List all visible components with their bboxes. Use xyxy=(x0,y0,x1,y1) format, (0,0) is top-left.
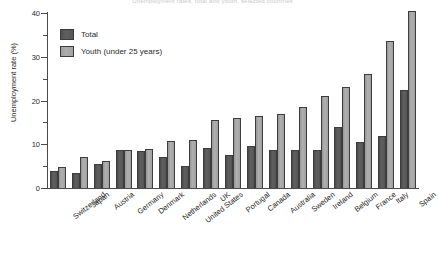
x-axis-labels: SwitzerlandJapanAustriaGermanyDenmarkNet… xyxy=(47,190,419,260)
chart-title: Unemployment rates, total and youth, sel… xyxy=(0,0,425,5)
bar-total xyxy=(137,151,145,188)
x-tick-label: Spain xyxy=(417,190,438,209)
bar-total xyxy=(269,150,277,189)
y-tick-label: 0 xyxy=(2,184,40,193)
y-tick-label-wrap: 20 xyxy=(0,101,40,102)
y-tick-major xyxy=(41,188,47,189)
bar-youth xyxy=(408,11,416,188)
bar-total xyxy=(50,171,58,189)
x-tick-label: France xyxy=(374,190,398,211)
x-tick-label-wrap: Italy xyxy=(394,190,410,206)
bar-youth xyxy=(342,87,350,189)
x-tick-label-wrap: France xyxy=(374,190,398,211)
bar-group xyxy=(69,13,91,188)
bar-total xyxy=(313,150,321,189)
x-tick-label-wrap: Portugal xyxy=(244,190,272,214)
bar-youth xyxy=(189,140,197,188)
bar-group xyxy=(222,13,244,188)
bar-group xyxy=(113,13,135,188)
bar-youth xyxy=(321,96,329,188)
bar-group xyxy=(200,13,222,188)
bar-group xyxy=(266,13,288,188)
bar-group xyxy=(156,13,178,188)
bar-total xyxy=(116,150,124,188)
bar-total xyxy=(291,150,299,189)
x-axis-line xyxy=(47,188,419,189)
bar-group xyxy=(310,13,332,188)
bar-group xyxy=(91,13,113,188)
y-tick-label-wrap: 40 xyxy=(0,13,40,14)
bar-total xyxy=(72,173,80,188)
bar-youth xyxy=(211,120,219,188)
y-tick-label: 30 xyxy=(2,53,40,62)
y-tick-label-wrap: 0 xyxy=(0,188,40,189)
bar-youth xyxy=(102,161,110,188)
x-tick-label: Italy xyxy=(394,190,410,206)
bar-youth xyxy=(233,118,241,188)
bar-total xyxy=(400,90,408,188)
x-tick-label: Australia xyxy=(288,190,317,215)
bar-group xyxy=(135,13,157,188)
bar-group xyxy=(375,13,397,188)
bar-youth xyxy=(80,157,88,188)
bar-total xyxy=(378,136,386,188)
bar-total xyxy=(203,148,211,188)
x-tick-label: Portugal xyxy=(244,190,272,214)
bar-youth xyxy=(386,41,394,188)
y-tick-label: 20 xyxy=(2,97,40,106)
bar-total xyxy=(181,166,189,188)
bar-group xyxy=(47,13,69,188)
y-tick-label-wrap: 30 xyxy=(0,57,40,58)
y-tick-label: 40 xyxy=(2,9,40,18)
bar-group xyxy=(178,13,200,188)
bar-total xyxy=(247,146,255,188)
bar-youth xyxy=(364,74,372,188)
bar-youth xyxy=(299,107,307,188)
bar-total xyxy=(334,127,342,188)
y-tick-label-wrap: 10 xyxy=(0,144,40,145)
bar-total xyxy=(94,164,102,189)
bar-youth xyxy=(124,150,132,189)
bar-youth xyxy=(255,116,263,188)
bar-total xyxy=(356,142,364,188)
x-tick-label-wrap: Spain xyxy=(417,190,438,209)
bar-total xyxy=(159,157,167,189)
bar-group xyxy=(397,13,419,188)
bar-youth xyxy=(167,141,175,188)
bar-youth xyxy=(277,114,285,188)
bar-group xyxy=(288,13,310,188)
bar-youth xyxy=(145,149,153,188)
y-tick-label: 10 xyxy=(2,140,40,149)
bar-group xyxy=(331,13,353,188)
x-tick-label: Austria xyxy=(112,190,136,211)
x-tick-label-wrap: Australia xyxy=(288,190,317,215)
bar-total xyxy=(225,155,233,188)
bar-youth xyxy=(58,167,66,188)
x-tick-label-wrap: Austria xyxy=(112,190,136,211)
y-axis-title: Unemployment rate (%) xyxy=(9,8,18,158)
x-tick-label-wrap: Japan xyxy=(89,190,111,210)
bar-group xyxy=(353,13,375,188)
bar-group xyxy=(244,13,266,188)
bar-series-area xyxy=(47,13,419,188)
x-tick-label: Japan xyxy=(89,190,111,210)
